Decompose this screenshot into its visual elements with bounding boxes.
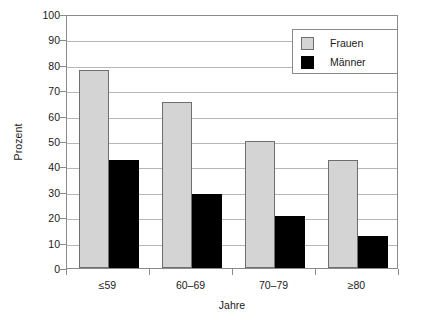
x-axis-tick-label: ≤59 <box>63 279 153 291</box>
y-axis-tick-label: 10 <box>20 239 60 249</box>
y-axis-tick-label: 60 <box>20 112 60 122</box>
y-axis-tick-label: 70 <box>20 86 60 96</box>
bar-frauen-3 <box>328 160 358 268</box>
bar-männer-2 <box>275 216 305 268</box>
x-axis-tick-label: ≥80 <box>312 279 402 291</box>
y-axis-tick-label: 100 <box>20 10 60 20</box>
x-axis-tick-mark <box>315 269 316 275</box>
legend-item-frauen: Frauen <box>301 35 363 51</box>
bar-chart-figure: Prozent 0102030405060708090100 ≤5960–697… <box>0 0 421 324</box>
y-axis-tick-label: 80 <box>20 61 60 71</box>
y-axis-tick-label: 20 <box>20 213 60 223</box>
bar-frauen-2 <box>245 141 275 268</box>
legend: Frauen Männer <box>292 29 398 74</box>
y-axis-tick-label: 40 <box>20 162 60 172</box>
x-axis-tick-mark <box>149 269 150 275</box>
x-axis-tick-mark <box>398 269 399 275</box>
bar-männer-0 <box>109 160 139 268</box>
y-axis-tick-label: 50 <box>20 137 60 147</box>
legend-label-maenner: Männer <box>330 56 366 68</box>
y-axis-tick-label: 90 <box>20 35 60 45</box>
legend-item-maenner: Männer <box>301 54 366 70</box>
bar-frauen-0 <box>79 70 109 268</box>
x-axis-tick-mark <box>232 269 233 275</box>
x-axis-tick-mark <box>66 269 67 275</box>
legend-swatch-maenner <box>301 56 314 69</box>
legend-swatch-frauen <box>301 37 314 50</box>
bar-group <box>67 16 150 268</box>
legend-label-frauen: Frauen <box>330 37 363 49</box>
bar-group <box>150 16 233 268</box>
y-axis-tick-label: 0 <box>20 264 60 274</box>
bar-männer-1 <box>192 194 222 268</box>
x-axis-tick-label: 70–79 <box>229 279 319 291</box>
y-axis-tick-label: 30 <box>20 188 60 198</box>
bar-männer-3 <box>358 236 388 268</box>
bar-frauen-1 <box>162 102 192 268</box>
x-axis-tick-label: 60–69 <box>146 279 236 291</box>
x-axis-title: Jahre <box>66 299 398 311</box>
